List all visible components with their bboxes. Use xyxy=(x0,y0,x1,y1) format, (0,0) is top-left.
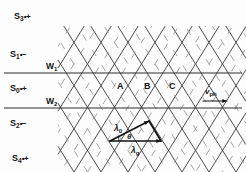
lambda-zero-label: λ0 xyxy=(114,124,122,134)
solid-lattice-lines xyxy=(58,26,246,172)
level-charge: •− xyxy=(20,119,27,128)
theta-angle-label: θ xyxy=(127,133,131,141)
wire-label-w1: W1 xyxy=(46,62,57,72)
level-charge: •+ xyxy=(24,12,31,21)
region-label-a: A xyxy=(117,82,124,91)
wire-base: W xyxy=(46,61,54,71)
lambda-g-label: λg xyxy=(131,146,139,156)
phase-velocity-arrow xyxy=(203,99,227,103)
level-charge: •+ xyxy=(20,84,27,93)
region-label-b: B xyxy=(144,82,151,91)
energy-level-s1: S1•− xyxy=(10,50,26,61)
wire-label-w2: W2 xyxy=(46,97,57,107)
wire-index: 2 xyxy=(54,101,57,107)
energy-level-s0: S0•+ xyxy=(10,84,26,95)
phase-velocity-label: vph xyxy=(205,88,217,97)
energy-level-s4: S4•+ xyxy=(12,154,28,165)
figure-canvas: S3•+S1•−S0•+S2•−S4•+ W1W2 ABC vph λ0 θ λ… xyxy=(0,0,246,172)
lambda0-index: 0 xyxy=(119,128,122,134)
wire-base: W xyxy=(46,96,54,106)
level-charge: •+ xyxy=(22,154,29,163)
energy-level-s2: S2•− xyxy=(10,119,26,130)
velocity-index: ph xyxy=(209,91,216,97)
energy-level-s3: S3•+ xyxy=(14,12,30,23)
wire-index: 1 xyxy=(54,66,57,72)
level-charge: •− xyxy=(20,50,27,59)
region-label-c: C xyxy=(169,82,176,91)
lambdag-index: g xyxy=(136,150,140,156)
